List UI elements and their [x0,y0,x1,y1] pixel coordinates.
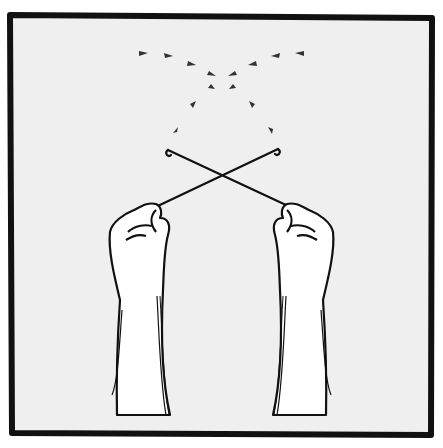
panel-frame [10,15,432,435]
left-fist-icon [110,203,170,415]
right-fist-icon [273,203,333,415]
illustration-canvas [0,0,443,448]
